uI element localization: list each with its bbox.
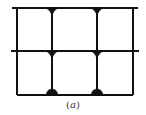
joint-mid-1-icon bbox=[46, 51, 58, 58]
joint-top-2-icon bbox=[91, 8, 103, 15]
joint-bottom-1-icon bbox=[46, 89, 58, 95]
joint-mid-2-icon bbox=[91, 51, 103, 58]
joint-top-1-icon bbox=[46, 8, 58, 15]
figure-caption: (a) bbox=[0, 99, 146, 110]
frame-diagram bbox=[0, 0, 146, 98]
joint-bottom-2-icon bbox=[91, 89, 103, 95]
caption-close: ) bbox=[76, 99, 80, 110]
